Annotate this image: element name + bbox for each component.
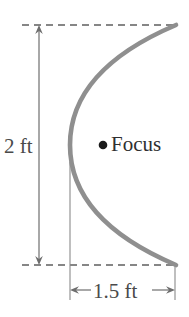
focus-label: Focus: [111, 134, 161, 155]
parabola-diagram: 2 ft 1.5 ft Focus: [0, 0, 189, 317]
width-dimension-label: 1.5 ft: [93, 281, 137, 302]
diagram-canvas: [0, 0, 189, 317]
height-dimension-label: 2 ft: [4, 136, 33, 157]
focus-point-dot: [99, 141, 108, 150]
